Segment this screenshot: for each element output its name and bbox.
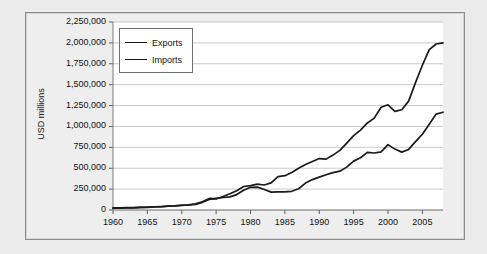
legend-line-swatch-imports <box>125 59 147 60</box>
y-tick-label: 1,000,000 <box>40 120 106 130</box>
y-tick-label: 1,250,000 <box>40 100 106 110</box>
y-tick-label: 500,000 <box>40 162 106 172</box>
y-tick-label: 0 <box>40 204 106 214</box>
legend-entry-imports: Imports <box>125 53 182 66</box>
y-tick-label: 2,000,000 <box>40 37 106 47</box>
legend-label-imports: Imports <box>152 55 182 65</box>
y-tick-marks <box>109 22 113 210</box>
legend-line-swatch-exports <box>125 42 147 43</box>
y-tick-label: 250,000 <box>40 183 106 193</box>
chart-legend: Exports Imports <box>119 28 193 73</box>
line-chart: USD millions 0250,000500,000750,0001,000… <box>0 0 487 254</box>
y-tick-label: 750,000 <box>40 141 106 151</box>
x-tick-marks <box>113 210 422 214</box>
legend-label-exports: Exports <box>152 38 183 48</box>
y-tick-label: 1,750,000 <box>40 58 106 68</box>
y-tick-label: 1,500,000 <box>40 79 106 89</box>
y-tick-label: 2,250,000 <box>40 16 106 26</box>
legend-entry-exports: Exports <box>125 36 183 49</box>
x-tick-label: 2005 <box>402 217 442 227</box>
